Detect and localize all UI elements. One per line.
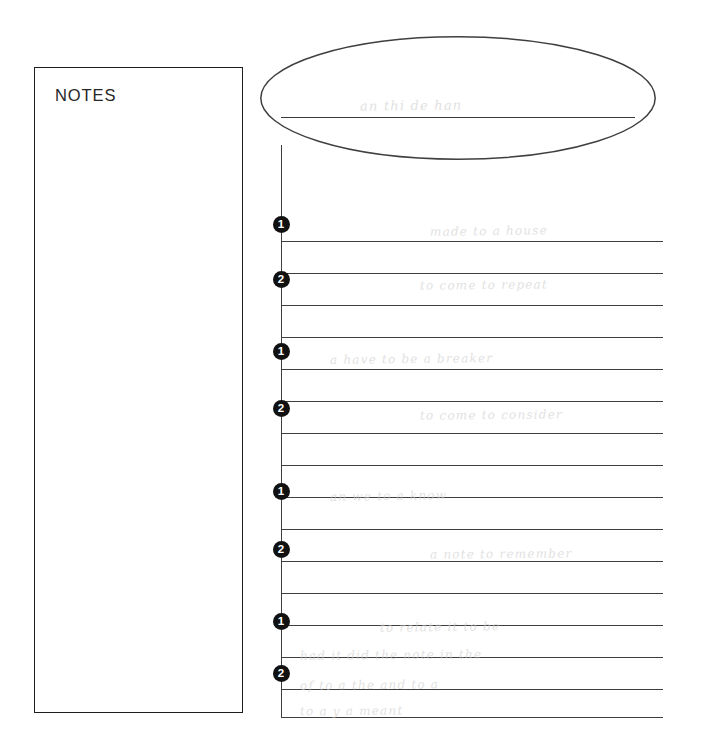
rule-line[interactable]	[281, 529, 663, 530]
notes-panel[interactable]: NOTES	[34, 67, 243, 713]
numbered-bullet-2: 2	[273, 665, 290, 682]
rule-line[interactable]	[281, 593, 663, 594]
ghost-handwriting: an thi de han	[360, 97, 463, 113]
rule-line[interactable]	[281, 625, 663, 626]
numbered-bullet-2: 2	[273, 400, 290, 417]
rule-line[interactable]	[281, 561, 663, 562]
numbered-bullet-1: 1	[273, 216, 290, 233]
title-ellipse	[259, 36, 657, 160]
rule-line[interactable]	[281, 241, 663, 242]
rule-line[interactable]	[281, 305, 663, 306]
numbered-bullet-1: 1	[273, 613, 290, 630]
title-writing-line[interactable]	[281, 117, 635, 118]
worksheet-page: NOTES an thi de hanmade to a houseto com…	[0, 0, 707, 749]
numbered-bullet-2: 2	[273, 541, 290, 558]
rule-line[interactable]	[281, 433, 663, 434]
numbered-bullet-1: 1	[273, 483, 290, 500]
numbered-bullet-2: 2	[273, 271, 290, 288]
notes-panel-label: NOTES	[55, 86, 116, 105]
ruled-sheet[interactable]	[281, 145, 663, 717]
rule-line[interactable]	[281, 657, 663, 658]
rule-line[interactable]	[281, 273, 663, 274]
rule-line[interactable]	[281, 337, 663, 338]
rule-line[interactable]	[281, 689, 663, 690]
rule-line[interactable]	[281, 401, 663, 402]
rule-line[interactable]	[281, 465, 663, 466]
rule-line[interactable]	[281, 369, 663, 370]
numbered-bullet-1: 1	[273, 343, 290, 360]
rule-line[interactable]	[281, 497, 663, 498]
rule-line[interactable]	[281, 717, 663, 718]
